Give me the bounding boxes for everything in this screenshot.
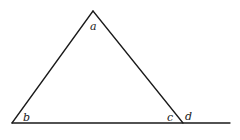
triangle-diagram: a b c d xyxy=(0,0,240,140)
angle-label-a: a xyxy=(90,20,97,33)
angle-label-d: d xyxy=(185,110,192,123)
angle-label-c: c xyxy=(167,111,173,124)
edge-left xyxy=(12,11,93,123)
edge-right xyxy=(93,11,183,123)
angle-label-b: b xyxy=(23,111,30,124)
